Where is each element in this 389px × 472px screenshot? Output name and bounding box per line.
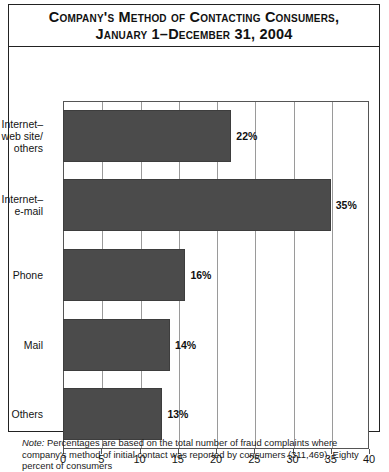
bar[interactable] — [63, 319, 170, 371]
chart-figure: Company's Method of Contacting Consumers… — [8, 4, 380, 432]
category-label: Phone — [13, 269, 43, 281]
bar-value-label: 13% — [167, 408, 188, 420]
bar-row[interactable]: 14% — [63, 319, 369, 371]
page-title-line-2: January 1–December 31, 2004 — [96, 26, 293, 43]
bar-value-label: 22% — [236, 130, 257, 142]
bars-layer: 22%35%16%14%13% — [63, 101, 369, 449]
bar-row[interactable]: 22% — [63, 110, 369, 162]
chart-body: 22%35%16%14%13% 0510152025303540Internet… — [9, 47, 379, 431]
bar-value-label: 14% — [175, 339, 196, 351]
bar-row[interactable]: 35% — [63, 179, 369, 231]
bar[interactable] — [63, 110, 231, 162]
bar[interactable] — [63, 179, 331, 231]
note-label: Note: — [22, 437, 44, 448]
bar[interactable] — [63, 249, 185, 301]
category-label: Others — [11, 408, 43, 420]
bar[interactable] — [63, 388, 162, 440]
note-text: Percentages are based on the total numbe… — [22, 437, 359, 471]
bar-row[interactable]: 16% — [63, 249, 369, 301]
bar-row[interactable]: 13% — [63, 388, 369, 440]
chart-note: Note: Percentages are based on the total… — [22, 437, 374, 472]
bar-value-label: 16% — [190, 269, 211, 281]
bar-value-label: 35% — [336, 199, 357, 211]
category-label: Internet– e-mail — [2, 193, 43, 217]
page-title-line-1: Company's Method of Contacting Consumers… — [49, 9, 339, 26]
chart-title-band: Company's Method of Contacting Consumers… — [9, 5, 379, 47]
category-label: Internet– web site/ others — [2, 118, 43, 154]
category-label: Mail — [24, 339, 43, 351]
